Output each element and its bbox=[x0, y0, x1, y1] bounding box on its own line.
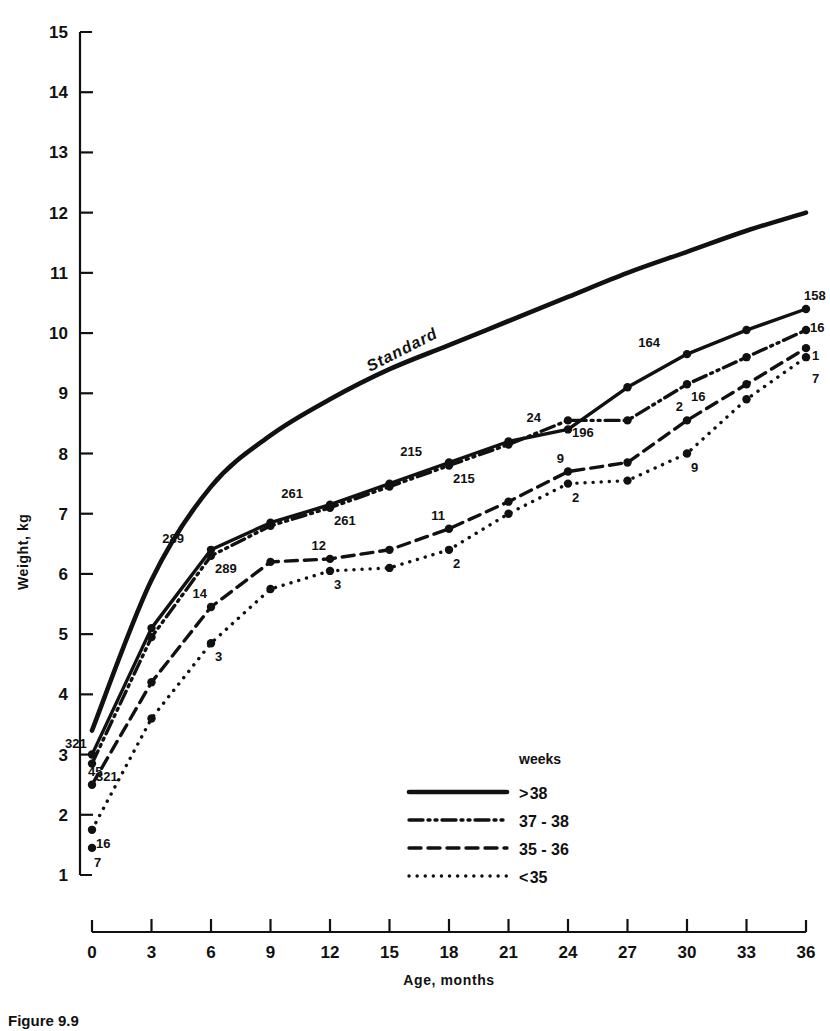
point-label-37-38-24: 196 bbox=[572, 425, 594, 440]
data-point-35-36-36 bbox=[802, 344, 810, 352]
point-label--38-6: 289 bbox=[162, 531, 184, 546]
data-point-35-36-3 bbox=[147, 678, 155, 686]
data-point-37-38-27 bbox=[623, 416, 631, 424]
point-label--35-6: 3 bbox=[215, 649, 222, 664]
y-tick-label-2: 2 bbox=[59, 806, 68, 825]
y-tick-label-7: 7 bbox=[59, 505, 68, 524]
point-label--35-36: 7 bbox=[812, 371, 819, 386]
legend-item-35-36[interactable]: 35 - 36 bbox=[409, 841, 569, 858]
data-point-35-36-6 bbox=[207, 603, 215, 611]
x-tick-label-12: 12 bbox=[321, 943, 340, 962]
standard-curve-annotation: Standard bbox=[364, 324, 441, 374]
point-label--35-12: 3 bbox=[334, 577, 341, 592]
point-label-35-36-30: 2 bbox=[676, 399, 683, 414]
x-axis-title: Age, months bbox=[403, 972, 494, 988]
x-tick-label-21: 21 bbox=[499, 943, 518, 962]
y-tick-label-14: 14 bbox=[49, 83, 68, 102]
legend-label-37-38: 37 - 38 bbox=[519, 813, 569, 830]
y-tick-label-15: 15 bbox=[49, 23, 68, 42]
x-tick-label-15: 15 bbox=[380, 943, 399, 962]
point-label--35-24: 2 bbox=[572, 490, 579, 505]
data-point-35-36-24 bbox=[564, 467, 572, 475]
legend-label-35-36: 35 - 36 bbox=[519, 841, 569, 858]
y-tick-label-4: 4 bbox=[59, 685, 69, 704]
data-point-37-38-36 bbox=[802, 326, 810, 334]
x-axis: 0369121518212427303336 Age, months bbox=[87, 919, 815, 988]
y-tick-label-6: 6 bbox=[59, 565, 68, 584]
legend-label-lt35: < 35 bbox=[519, 869, 548, 886]
data-point-35-36-12 bbox=[326, 555, 334, 563]
y-tick-label-12: 12 bbox=[49, 204, 68, 223]
data-point--38-27 bbox=[623, 383, 631, 391]
data-point--38-0 bbox=[88, 750, 96, 758]
legend-header: weeks bbox=[518, 751, 561, 767]
point-label-37-38-30: 16 bbox=[691, 389, 705, 404]
legend-label-gt38: > 38 bbox=[519, 785, 548, 802]
data-point-37-38-18 bbox=[445, 461, 453, 469]
data-point-37-38-21 bbox=[504, 440, 512, 448]
data-point-35-36-18 bbox=[445, 525, 453, 533]
x-tick-label-18: 18 bbox=[440, 943, 459, 962]
data-point--38-36 bbox=[802, 305, 810, 313]
legend-item-37-38[interactable]: 37 - 38 bbox=[409, 813, 569, 830]
data-point-35-36-0 bbox=[88, 780, 96, 788]
y-tick-group bbox=[80, 92, 93, 815]
data-point-37-38-12 bbox=[326, 503, 334, 511]
y-tick-label-11: 11 bbox=[50, 264, 68, 283]
point-label--38-0: 321 bbox=[65, 736, 87, 751]
point-label--38-24: 24 bbox=[527, 410, 542, 425]
data-point-37-38-3 bbox=[147, 633, 155, 641]
x-tick-label-24: 24 bbox=[559, 943, 578, 962]
y-tick-label-group: 151413121110987654321 bbox=[49, 23, 68, 885]
growth-chart-svg: 151413121110987654321 Weight, kg 0369121… bbox=[0, 0, 830, 1031]
legend: weeks > 38 37 - 38 35 - 36 < 35 bbox=[409, 751, 569, 886]
data-point--35-18 bbox=[445, 546, 453, 554]
point-label-37-38-36: 16 bbox=[810, 320, 824, 335]
point-label-lowest-birth-point-0: 7 bbox=[94, 855, 101, 870]
x-tick-label-group: 0369121518212427303336 bbox=[87, 943, 815, 962]
data-point-35-36-30 bbox=[683, 416, 691, 424]
x-tick-label-27: 27 bbox=[618, 943, 637, 962]
data-point-37-38-15 bbox=[385, 482, 393, 490]
point-label--38-18: 215 bbox=[400, 444, 422, 459]
point-label--35-0: 16 bbox=[96, 836, 110, 851]
data-point-37-38-9 bbox=[266, 522, 274, 530]
y-tick-label-9: 9 bbox=[59, 384, 68, 403]
data-point--35-27 bbox=[623, 476, 631, 484]
data-point-37-38-30 bbox=[683, 380, 691, 388]
data-point--35-33 bbox=[742, 395, 750, 403]
data-point--35-21 bbox=[504, 510, 512, 518]
series-line-standard bbox=[92, 213, 806, 731]
point-label-35-36-6: 14 bbox=[193, 586, 208, 601]
x-tick-label-36: 36 bbox=[797, 943, 816, 962]
point-label-37-38-6: 289 bbox=[215, 561, 237, 576]
data-point-35-36-27 bbox=[623, 458, 631, 466]
data-point--35-36 bbox=[802, 353, 810, 361]
data-point-37-38-24 bbox=[564, 416, 572, 424]
figure-caption: Figure 9.9 bbox=[8, 1012, 79, 1031]
data-point--35-9 bbox=[266, 585, 274, 593]
figure-container: 151413121110987654321 Weight, kg 0369121… bbox=[0, 0, 830, 1031]
point-label--38-36: 158 bbox=[804, 288, 826, 303]
x-tick-label-33: 33 bbox=[737, 943, 756, 962]
point-label-37-38-12: 261 bbox=[334, 513, 356, 528]
point-label-35-36-18: 11 bbox=[431, 508, 445, 523]
point-label--35-30: 9 bbox=[691, 460, 698, 475]
point-label-35-36-0: 45 bbox=[88, 764, 102, 779]
series-group bbox=[92, 213, 806, 830]
y-axis: 151413121110987654321 Weight, kg bbox=[15, 23, 93, 885]
data-point-37-38-33 bbox=[742, 353, 750, 361]
y-tick-label-1: 1 bbox=[59, 866, 68, 885]
y-tick-label-8: 8 bbox=[59, 445, 68, 464]
point-label--38-12: 261 bbox=[281, 486, 303, 501]
point-label-group: 3212892612152416415832128926121519616164… bbox=[65, 288, 826, 870]
legend-item-gt38[interactable]: > 38 bbox=[409, 785, 548, 802]
data-point--35-24 bbox=[564, 479, 572, 487]
data-point--38-3 bbox=[147, 624, 155, 632]
chart-canvas: 151413121110987654321 Weight, kg 0369121… bbox=[0, 0, 830, 1031]
legend-item-lt35[interactable]: < 35 bbox=[409, 869, 548, 886]
y-tick-label-5: 5 bbox=[59, 625, 68, 644]
point-label-35-36-24: 9 bbox=[557, 451, 564, 466]
point-label-35-36-36: 1 bbox=[812, 348, 819, 363]
x-tick-label-30: 30 bbox=[678, 943, 697, 962]
